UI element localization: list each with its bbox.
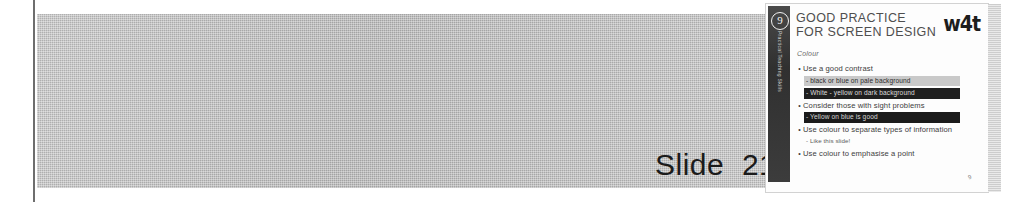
page-right-margin-strip	[988, 4, 1001, 192]
sub-item: - White - yellow on dark background	[804, 88, 960, 99]
sub-item: - Like this slide!	[804, 136, 981, 147]
bullet-label: Use colour to emphasise a point	[803, 149, 981, 158]
slide-thumbnail: 9 Practical Teaching Skills GOOD PRACTIC…	[766, 4, 988, 192]
list-item: • Use colour to separate types of inform…	[796, 125, 981, 134]
list-item: • Use colour to emphasise a point	[796, 149, 981, 158]
slide-caption: Slide 21	[655, 148, 776, 182]
list-item: • Use a good contrast	[796, 64, 981, 73]
bullet-dot-icon: •	[796, 64, 803, 73]
bullet-dot-icon: •	[796, 125, 803, 134]
sub-item: - Yellow on blue is good	[804, 112, 960, 123]
scanned-page: Slide 21 9 Practical Teaching Skills GOO…	[0, 0, 1027, 202]
slide-body: GOOD PRACTICE FOR SCREEN DESIGN w4t Colo…	[792, 6, 985, 190]
brand-logo-icon: w4t	[940, 8, 980, 38]
bullet-label: Use colour to separate types of informat…	[803, 125, 981, 134]
bullet-group: • Use a good contrast - black or blue on…	[796, 64, 981, 99]
bullet-group: • Use colour to separate types of inform…	[796, 125, 981, 147]
bullet-label: Use a good contrast	[803, 64, 981, 73]
bullet-label: Consider those with sight problems	[803, 101, 981, 110]
bullet-group: • Consider those with sight problems - Y…	[796, 101, 981, 123]
bullet-dot-icon: •	[796, 101, 803, 110]
sub-item: - black or blue on pale background	[804, 76, 960, 87]
bullet-dot-icon: •	[796, 149, 803, 158]
list-item: • Consider those with sight problems	[796, 101, 981, 110]
slide-sidebar: 9 Practical Teaching Skills	[768, 6, 790, 182]
slide-title: GOOD PRACTICE FOR SCREEN DESIGN	[796, 12, 936, 39]
slide-subheading: Colour	[797, 50, 819, 57]
slide-bullet-list: • Use a good contrast - black or blue on…	[796, 64, 981, 160]
sidebar-vertical-label: Practical Teaching Skills	[776, 13, 783, 111]
slide-corner-mark: 9	[967, 174, 972, 181]
page-margin-rule	[33, 0, 35, 202]
bullet-group: • Use colour to emphasise a point	[796, 149, 981, 158]
